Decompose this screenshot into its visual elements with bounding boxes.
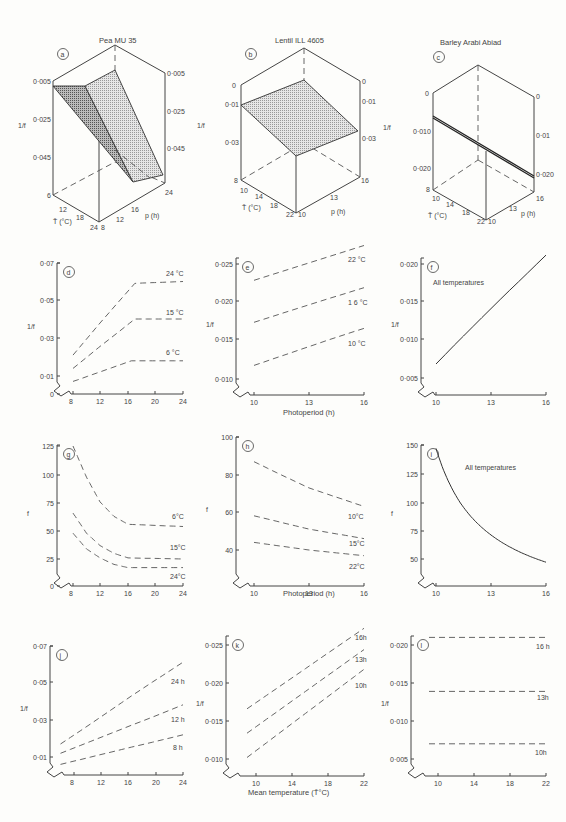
y-tick-label: 0 <box>50 391 54 398</box>
axes <box>47 646 183 777</box>
y-axis-label: 1/f <box>391 321 399 328</box>
svg-text:0·020: 0·020 <box>536 171 554 178</box>
series-line <box>73 513 183 559</box>
series-label: 1 6 °C <box>348 299 368 306</box>
y-tick-label: 0·010 <box>400 336 418 343</box>
series-label: 6°C <box>172 513 184 520</box>
y-tick-label: 0·015 <box>215 336 233 343</box>
series-label: 24 °C <box>166 270 184 277</box>
series-line <box>73 446 183 527</box>
svg-text:0: 0 <box>536 93 540 100</box>
series-line <box>247 669 364 757</box>
panel-j-chart: j8121620240·010·030·050·071/f24 h12 h8 h <box>20 643 187 787</box>
y-tick-label: 50 <box>46 528 54 535</box>
series-line <box>247 628 364 709</box>
series-line <box>61 662 184 744</box>
svg-text:0·01: 0·01 <box>362 98 376 105</box>
svg-text:13: 13 <box>509 205 517 212</box>
x-tick-label: 16 <box>124 398 132 405</box>
x-tick-label: 16 <box>360 399 368 406</box>
x-tick-label: 10 <box>432 399 440 406</box>
xlabel-photoperiod-row3: Photoperiod (h) <box>283 589 335 598</box>
series-line <box>436 255 546 364</box>
svg-text:10: 10 <box>240 187 248 194</box>
panel-letter: e <box>246 264 250 271</box>
x-tick-label: 16 <box>124 590 132 597</box>
panel-letter-circle <box>418 640 429 651</box>
series-line <box>61 735 184 765</box>
panel-c-title: Barley Arabi Abiad <box>440 38 501 47</box>
panel-letter-circle <box>428 262 439 273</box>
svg-text:18: 18 <box>462 209 470 216</box>
svg-text:24: 24 <box>90 224 98 231</box>
axes <box>223 636 364 778</box>
y-axis-label: 1/f <box>196 700 204 707</box>
y-tick-label: 80 <box>225 472 233 479</box>
series-label: 13h <box>537 694 549 701</box>
x-tick-label: 13 <box>487 590 495 597</box>
series-label: 15°C <box>349 540 365 547</box>
svg-text:0·010: 0·010 <box>413 128 431 135</box>
x-tick-label: 24 <box>179 779 187 786</box>
x-tick-label: 16 <box>542 399 550 406</box>
series-label: 16h <box>355 634 367 641</box>
x-tick-label: 24 <box>179 398 187 405</box>
svg-text:10: 10 <box>432 195 440 202</box>
svg-text:0·005: 0·005 <box>33 78 51 85</box>
x-tick-label: 22 <box>542 780 550 787</box>
annotation: All temperatures <box>433 279 484 287</box>
axes <box>408 636 546 778</box>
panel-letter: i <box>431 451 433 458</box>
x-tick-label: 18 <box>506 780 514 787</box>
svg-text:p (h): p (h) <box>331 208 345 216</box>
series-label: 13h <box>355 656 367 663</box>
x-tick-label: 16 <box>542 590 550 597</box>
annotation: All temperatures <box>465 464 516 472</box>
series-line <box>254 462 364 507</box>
x-tick-label: 13 <box>487 399 495 406</box>
x-tick-label: 12 <box>97 779 105 786</box>
y-tick-label: 150 <box>406 442 418 449</box>
x-tick-label: 20 <box>152 779 160 786</box>
svg-text:0·005: 0·005 <box>167 70 185 77</box>
series-label: 22 °C <box>348 256 366 263</box>
svg-text:8: 8 <box>426 186 430 193</box>
x-tick-label: 8 <box>70 779 74 786</box>
svg-text:12: 12 <box>116 216 124 223</box>
x-tick-label: 12 <box>96 590 104 597</box>
y-tick-label: 100 <box>42 472 54 479</box>
svg-text:0: 0 <box>362 78 366 85</box>
panel-g-chart: g8121620240255075100125f6°C15°C24°C <box>27 443 187 598</box>
svg-text:0·025: 0·025 <box>33 116 51 123</box>
panel-letter: g <box>67 451 71 459</box>
svg-text:24: 24 <box>165 189 173 196</box>
x-tick-label: 10 <box>434 780 442 787</box>
y-axis-label: 1/f <box>27 323 35 330</box>
panel-letter: k <box>236 642 240 649</box>
x-tick-label: 10 <box>432 590 440 597</box>
panel-letter: j <box>59 652 62 660</box>
y-tick-label: 125 <box>42 443 54 450</box>
series-label: 10 °C <box>348 340 366 347</box>
series-label: 15 °C <box>166 309 184 316</box>
y-tick-label: 0·025 <box>205 642 223 649</box>
panel-letter-circle <box>57 650 68 661</box>
x-tick-label: 20 <box>151 398 159 405</box>
panel-a-3d: Pea MU 35 a 0·005 0·025 0·045 0·005 0·02… <box>18 36 185 231</box>
svg-text:0·03: 0·03 <box>362 135 376 142</box>
y-tick-label: 0·07 <box>33 643 47 650</box>
y-tick-label: 0·03 <box>33 717 47 724</box>
y-tick-label: 0·015 <box>400 298 418 305</box>
y-axis-label: f <box>206 506 208 513</box>
y-tick-label: 60 <box>225 509 233 516</box>
svg-text:14: 14 <box>446 201 454 208</box>
svg-text:18: 18 <box>270 202 278 209</box>
svg-text:8: 8 <box>101 224 105 231</box>
series-line <box>73 282 183 356</box>
svg-text:0·01: 0·01 <box>225 101 239 108</box>
y-tick-label: 0·015 <box>390 680 408 687</box>
series-line <box>61 705 184 754</box>
panel-a-plabel: p (h) <box>145 212 159 220</box>
y-tick-label: 0·020 <box>390 642 408 649</box>
panel-a-zlabel: 1/f <box>18 122 26 129</box>
